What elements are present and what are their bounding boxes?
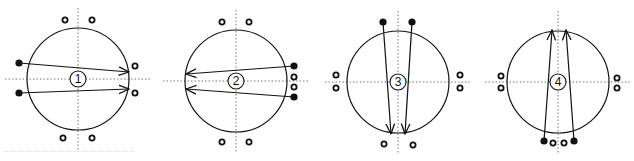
filled-dot-icon bbox=[15, 89, 22, 96]
open-dot-icon bbox=[132, 63, 137, 68]
open-dot-icon bbox=[246, 139, 251, 144]
open-dot-icon bbox=[219, 19, 224, 24]
open-dot-icon bbox=[498, 73, 503, 78]
open-dot-icon bbox=[381, 141, 386, 146]
panel-4: 4 bbox=[485, 11, 631, 153]
filled-dot-icon bbox=[408, 18, 415, 25]
open-dot-icon bbox=[60, 135, 65, 140]
arrow-line bbox=[186, 89, 294, 97]
arrow-line bbox=[19, 89, 129, 93]
panel-number-label: 4 bbox=[555, 75, 562, 89]
panel-number-label: 3 bbox=[395, 75, 402, 89]
diagram-canvas: 1234 bbox=[0, 0, 634, 161]
open-dot-icon bbox=[89, 17, 94, 22]
open-dot-icon bbox=[614, 85, 619, 90]
open-dot-icon bbox=[219, 139, 224, 144]
arrow-line bbox=[186, 66, 294, 74]
open-dot-icon bbox=[561, 140, 566, 145]
filled-dot-icon bbox=[570, 137, 577, 144]
open-dot-icon bbox=[457, 72, 462, 77]
open-dot-icon bbox=[89, 135, 94, 140]
open-dot-icon bbox=[291, 74, 296, 79]
open-dot-icon bbox=[614, 75, 619, 80]
open-dot-icon bbox=[132, 90, 137, 95]
open-dot-icon bbox=[333, 85, 338, 90]
panel-3: 3 bbox=[325, 11, 471, 153]
panel-number-label: 2 bbox=[233, 74, 240, 88]
panel-1: 1 bbox=[5, 8, 151, 150]
caption-truncated bbox=[4, 151, 134, 160]
open-dot-icon bbox=[291, 84, 296, 89]
open-dot-icon bbox=[62, 17, 67, 22]
filled-dot-icon bbox=[290, 93, 297, 100]
open-dot-icon bbox=[498, 85, 503, 90]
arrow-line bbox=[566, 30, 574, 141]
panel-number-label: 1 bbox=[75, 72, 82, 86]
arrow-line bbox=[405, 22, 412, 134]
open-dot-icon bbox=[550, 140, 555, 145]
open-dot-icon bbox=[457, 85, 462, 90]
filled-dot-icon bbox=[15, 59, 22, 66]
arrow-line bbox=[19, 63, 129, 72]
arrow-line bbox=[383, 22, 391, 134]
open-dot-icon bbox=[410, 142, 415, 147]
filled-dot-icon bbox=[290, 62, 297, 69]
open-dot-icon bbox=[333, 72, 338, 77]
open-dot-icon bbox=[246, 19, 251, 24]
panel-2: 2 bbox=[163, 10, 309, 152]
filled-dot-icon bbox=[379, 18, 386, 25]
filled-dot-icon bbox=[540, 137, 547, 144]
